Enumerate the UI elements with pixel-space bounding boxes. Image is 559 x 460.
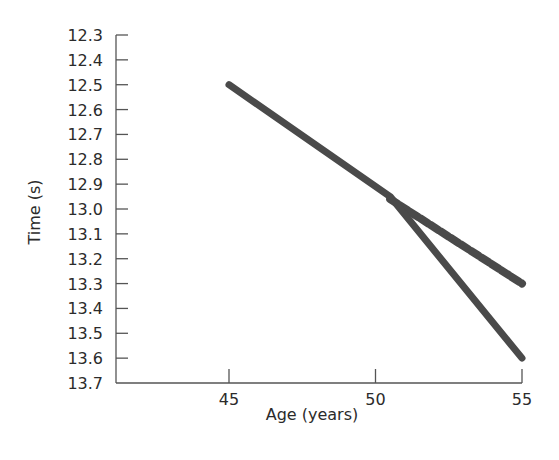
y-tick-label: 12.9 (67, 175, 103, 194)
x-tick-label: 50 (365, 390, 385, 409)
x-axis: 455055 (116, 369, 532, 409)
line-chart: 12.312.412.512.612.712.812.913.013.113.2… (0, 0, 559, 460)
y-tick-label: 12.8 (67, 150, 103, 169)
y-tick-label: 12.4 (67, 51, 103, 70)
y-tick-label: 13.6 (67, 349, 103, 368)
x-axis-title: Age (years) (266, 405, 359, 424)
y-tick-label: 12.5 (67, 76, 103, 95)
y-axis: 12.312.412.512.612.712.812.913.013.113.2… (67, 26, 128, 393)
y-axis-title: Time (s) (25, 179, 44, 245)
y-tick-label: 13.5 (67, 324, 103, 343)
x-tick-label: 45 (219, 390, 239, 409)
y-tick-label: 13.4 (67, 299, 103, 318)
y-tick-label: 13.1 (67, 225, 103, 244)
series-group (229, 85, 522, 358)
y-tick-label: 13.0 (67, 200, 103, 219)
y-tick-label: 12.3 (67, 26, 103, 45)
y-tick-label: 13.2 (67, 250, 103, 269)
y-tick-label: 13.7 (67, 374, 103, 393)
y-tick-label: 12.6 (67, 101, 103, 120)
y-tick-label: 13.3 (67, 275, 103, 294)
solid-line (229, 85, 522, 358)
y-tick-label: 12.7 (67, 125, 103, 144)
dashed-line (390, 199, 522, 284)
x-tick-label: 55 (512, 390, 532, 409)
